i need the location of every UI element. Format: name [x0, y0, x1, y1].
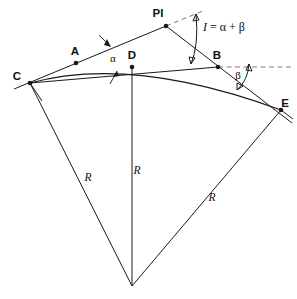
radius-line-to-e — [132, 110, 281, 286]
curve-diagram-canvas: PI A B C D E α β I = α + β R R R — [0, 0, 297, 299]
tangent-stub-at-c — [30, 83, 42, 101]
vertex-dot-a — [74, 61, 79, 66]
point-label-c: C — [13, 70, 21, 82]
point-label-b: B — [213, 49, 221, 61]
formula-intersection-angle: I = α + β — [202, 20, 245, 34]
radius-label-left: R — [83, 171, 91, 183]
curve-arc-c-to-e — [30, 74, 281, 110]
radius-label-right: R — [207, 191, 215, 203]
tangent-pointer-arrowhead — [104, 39, 111, 47]
vertex-dot-pi — [164, 24, 169, 29]
point-label-pi: PI — [153, 7, 164, 19]
radius-label-center: R — [132, 164, 140, 176]
back-tangent-dashed-extension — [166, 11, 203, 26]
horizontal-curve-diagram: PI A B C D E α β I = α + β R R R — [0, 0, 297, 299]
vertex-dot-c — [28, 81, 33, 86]
angle-label-alpha: α — [110, 52, 116, 64]
chord-line-c-to-b — [30, 67, 218, 83]
radius-line-to-c — [30, 83, 132, 286]
point-label-d: D — [128, 49, 136, 61]
angle-label-beta: β — [235, 69, 241, 81]
forward-tangent-line — [166, 26, 292, 123]
point-label-e: E — [281, 97, 289, 109]
back-tangent-line — [14, 26, 166, 89]
point-label-a: A — [71, 45, 79, 57]
angle-i-arc — [191, 14, 197, 64]
vertex-dot-d — [130, 65, 135, 70]
vertex-dot-b — [216, 65, 221, 70]
